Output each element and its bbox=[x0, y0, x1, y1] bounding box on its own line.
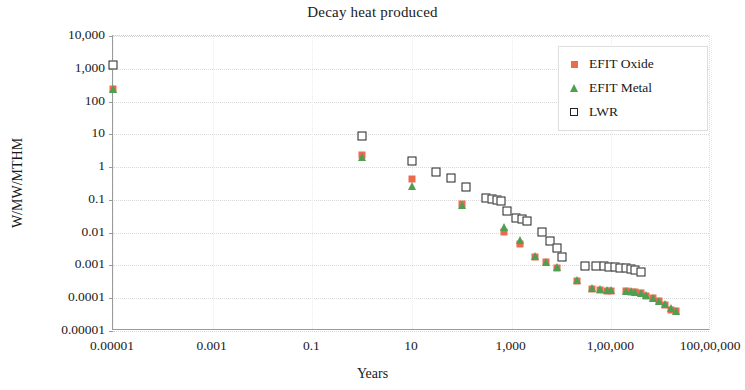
x-tick-label: 10 bbox=[404, 338, 418, 354]
x-tick-label: 1,00,000 bbox=[587, 338, 634, 354]
data-point bbox=[667, 304, 675, 312]
y-tick-label: 10 bbox=[9, 125, 105, 141]
data-point bbox=[661, 300, 669, 308]
data-point bbox=[446, 174, 455, 183]
gridline-vertical bbox=[412, 36, 413, 329]
y-tick-mark bbox=[109, 233, 113, 234]
y-tick-label: 0.1 bbox=[9, 191, 105, 207]
y-tick-label: 100 bbox=[9, 93, 105, 109]
y-tick-label: 10,000 bbox=[9, 27, 105, 43]
data-point bbox=[616, 263, 625, 272]
data-point bbox=[496, 197, 505, 206]
data-point bbox=[622, 287, 630, 295]
data-point bbox=[500, 223, 508, 231]
data-point bbox=[461, 182, 470, 191]
data-point bbox=[603, 287, 610, 294]
data-point bbox=[516, 236, 524, 244]
gridline-horizontal bbox=[113, 200, 709, 201]
gridline-horizontal bbox=[113, 265, 709, 266]
y-tick-label: 0.0001 bbox=[9, 289, 105, 305]
x-axis-title: Years bbox=[0, 366, 745, 382]
chart-legend: EFIT Oxide EFIT Metal LWR bbox=[558, 46, 708, 131]
data-point bbox=[573, 276, 581, 284]
gridline-vertical bbox=[711, 36, 712, 329]
y-tick-label: 0.00001 bbox=[9, 322, 105, 338]
gridline-horizontal bbox=[113, 331, 709, 332]
y-tick-mark bbox=[109, 200, 113, 201]
data-point bbox=[458, 200, 465, 207]
gridline-horizontal bbox=[113, 36, 709, 37]
y-tick-mark bbox=[109, 167, 113, 168]
data-point bbox=[517, 240, 524, 247]
data-point bbox=[588, 286, 595, 293]
data-point bbox=[481, 193, 490, 202]
decay-heat-chart: Decay heat produced W/MW/MTHM Years 10,0… bbox=[0, 0, 745, 390]
data-point bbox=[623, 288, 630, 295]
y-tick-mark bbox=[109, 265, 113, 266]
y-tick-mark bbox=[109, 331, 113, 332]
data-point bbox=[596, 285, 604, 293]
data-point bbox=[632, 288, 639, 295]
data-point bbox=[628, 288, 635, 295]
legend-label-efit-metal: EFIT Metal bbox=[589, 80, 652, 96]
data-point bbox=[638, 290, 645, 297]
data-point bbox=[637, 267, 646, 276]
data-point bbox=[458, 201, 466, 209]
data-point bbox=[359, 152, 366, 159]
data-point bbox=[672, 307, 680, 315]
legend-item-efit-metal[interactable]: EFIT Metal bbox=[565, 76, 703, 100]
y-tick-mark bbox=[109, 69, 113, 70]
data-point bbox=[517, 215, 526, 224]
data-point bbox=[553, 263, 561, 271]
chart-title: Decay heat produced bbox=[0, 4, 745, 21]
data-point bbox=[631, 288, 639, 296]
data-point bbox=[668, 306, 675, 313]
x-tick-label: 0.001 bbox=[196, 338, 226, 354]
data-point bbox=[673, 308, 680, 315]
data-point bbox=[552, 243, 561, 252]
data-point bbox=[627, 287, 635, 295]
data-point bbox=[557, 253, 566, 262]
data-point bbox=[603, 286, 611, 294]
y-tick-mark bbox=[109, 134, 113, 135]
y-tick-label: 1 bbox=[9, 158, 105, 174]
x-tick-label: 100,00,000 bbox=[680, 338, 741, 354]
legend-label-efit-oxide: EFIT Oxide bbox=[589, 56, 654, 72]
y-tick-label: 0.001 bbox=[9, 256, 105, 272]
y-tick-mark bbox=[109, 102, 113, 103]
data-point bbox=[546, 237, 555, 246]
triangle-marker-icon bbox=[565, 84, 583, 92]
x-tick-label: 0.00001 bbox=[90, 338, 134, 354]
x-tick-label: 0.1 bbox=[303, 338, 320, 354]
y-tick-mark bbox=[109, 298, 113, 299]
data-point bbox=[662, 302, 669, 309]
data-point bbox=[431, 167, 440, 176]
gridline-vertical bbox=[512, 36, 513, 329]
data-point bbox=[573, 277, 580, 284]
data-point bbox=[358, 131, 367, 140]
gridline-horizontal bbox=[113, 233, 709, 234]
open-square-marker-icon bbox=[565, 108, 583, 116]
data-point bbox=[532, 254, 539, 261]
gridline-horizontal bbox=[113, 298, 709, 299]
legend-item-efit-oxide[interactable]: EFIT Oxide bbox=[565, 52, 703, 76]
gridline-horizontal bbox=[113, 167, 709, 168]
data-point bbox=[637, 289, 645, 297]
gridline-vertical bbox=[213, 36, 214, 329]
data-point bbox=[531, 252, 539, 260]
data-point bbox=[631, 266, 640, 275]
y-tick-label: 0.01 bbox=[9, 224, 105, 240]
data-point bbox=[502, 207, 511, 216]
legend-item-lwr[interactable]: LWR bbox=[565, 100, 703, 124]
legend-label-lwr: LWR bbox=[589, 104, 618, 120]
data-point bbox=[358, 153, 366, 161]
y-tick-mark bbox=[109, 36, 113, 37]
gridline-vertical bbox=[312, 36, 313, 329]
data-point bbox=[522, 217, 531, 226]
x-tick-label: 1,000 bbox=[495, 338, 525, 354]
data-point bbox=[597, 287, 604, 294]
square-marker-icon bbox=[565, 61, 583, 68]
y-tick-label: 1,000 bbox=[9, 60, 105, 76]
gridline-horizontal bbox=[113, 134, 709, 135]
gridline-vertical bbox=[113, 36, 114, 329]
